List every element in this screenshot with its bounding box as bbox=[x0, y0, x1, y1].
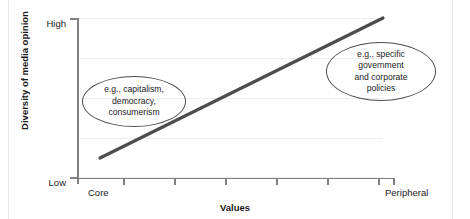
annotation-core-values: e.g., capitalism, democracy, consumerism bbox=[82, 76, 186, 127]
x-axis-title: Values bbox=[0, 202, 470, 213]
x-axis-line bbox=[78, 178, 394, 180]
y-tick-high bbox=[70, 18, 77, 20]
annotation-core-line-3: consumerism bbox=[96, 107, 172, 118]
annotation-peripheral-values: e.g., specific government and corporate … bbox=[326, 42, 436, 101]
gridline-1 bbox=[78, 18, 383, 19]
y-tick-label-low: Low bbox=[49, 177, 66, 188]
x-tick-6 bbox=[378, 178, 380, 185]
x-tick-5 bbox=[327, 178, 329, 185]
annotation-core-values-text: e.g., capitalism, democracy, consumerism bbox=[88, 84, 180, 118]
chart-figure: High Low Core Peripheral Values Diversit… bbox=[0, 0, 470, 219]
y-tick-label-high-wrap: High bbox=[0, 13, 66, 31]
gridline-4 bbox=[78, 138, 383, 139]
annotation-peripheral-line-1: e.g., specific bbox=[346, 49, 415, 60]
annotation-peripheral-line-2: government bbox=[346, 60, 415, 71]
y-axis-title: Diversity of media opinion bbox=[19, 0, 30, 161]
y-axis-line bbox=[77, 18, 79, 184]
x-tick-4 bbox=[276, 178, 278, 185]
annotation-core-line-2: democracy, bbox=[96, 96, 172, 107]
y-tick-low bbox=[70, 177, 77, 179]
annotation-core-line-1: e.g., capitalism, bbox=[96, 84, 172, 95]
y-tick-label-low-wrap: Low bbox=[0, 172, 66, 190]
annotation-peripheral-line-3: and corporate bbox=[346, 72, 415, 83]
x-tick-2 bbox=[174, 178, 176, 185]
y-tick-label-high: High bbox=[46, 18, 66, 29]
x-tick-label-peripheral: Peripheral bbox=[385, 188, 428, 198]
x-tick-1 bbox=[123, 178, 125, 185]
annotation-peripheral-line-4: policies bbox=[346, 83, 415, 94]
annotation-peripheral-values-text: e.g., specific government and corporate … bbox=[338, 49, 423, 94]
x-tick-label-core: Core bbox=[88, 188, 109, 198]
x-tick-7 bbox=[393, 178, 395, 185]
x-tick-3 bbox=[225, 178, 227, 185]
page-frame-rule-right bbox=[452, 0, 453, 219]
